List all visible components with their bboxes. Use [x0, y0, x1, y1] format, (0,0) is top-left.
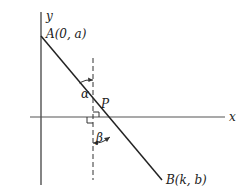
- point-a-coords: (0, a): [55, 27, 87, 41]
- beta-label: β: [95, 131, 103, 145]
- y-axis-label: y: [45, 9, 53, 23]
- point-b-coords: (k, b): [175, 173, 207, 187]
- right-angle-marker-lower: [87, 117, 93, 123]
- point-b-name: B: [165, 173, 175, 187]
- point-p-label: P: [100, 97, 110, 111]
- point-a-name: A: [45, 27, 55, 41]
- right-angle-marker-upper: [93, 112, 99, 117]
- point-b-label: B(k, b): [165, 173, 207, 187]
- alpha-arrowhead: [88, 78, 93, 83]
- beta-arrowhead: [104, 137, 110, 142]
- alpha-label: α: [81, 87, 89, 101]
- x-axis-label: x: [229, 110, 236, 124]
- diagram-canvas: y x A(0, a) B(k, b) P α β: [0, 0, 248, 195]
- point-a-label: A(0, a): [45, 27, 87, 41]
